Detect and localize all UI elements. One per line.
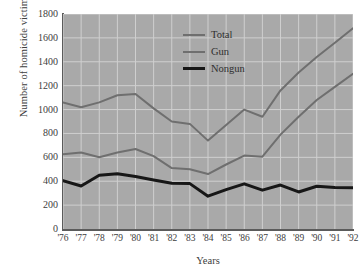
x-tick-label: '92 <box>340 233 364 244</box>
series-line-gun <box>63 74 353 174</box>
y-tick-label: 600 <box>18 152 58 162</box>
x-axis-line <box>62 229 354 231</box>
y-tick-label: 800 <box>18 128 58 138</box>
x-axis-tick-labels: '76'77'78'79'80'81'82'83'84'85'86'87'88'… <box>63 233 353 247</box>
y-tick-label: 1000 <box>18 105 58 115</box>
plot-area: TotalGunNongun <box>63 14 353 229</box>
series-line-nongun <box>63 174 353 196</box>
y-tick-label: 1600 <box>18 33 58 43</box>
y-tick-label: 400 <box>18 176 58 186</box>
y-tick-label: 1400 <box>18 57 58 67</box>
series-line-total <box>63 28 353 140</box>
y-tick-label: 1200 <box>18 81 58 91</box>
data-series-lines <box>63 14 353 229</box>
x-axis-title: Years <box>60 255 356 266</box>
y-tick-label: 1800 <box>18 9 58 19</box>
y-tick-label: 200 <box>18 200 58 210</box>
chart-figure: Number of homicide victims 0200400600800… <box>0 0 364 277</box>
